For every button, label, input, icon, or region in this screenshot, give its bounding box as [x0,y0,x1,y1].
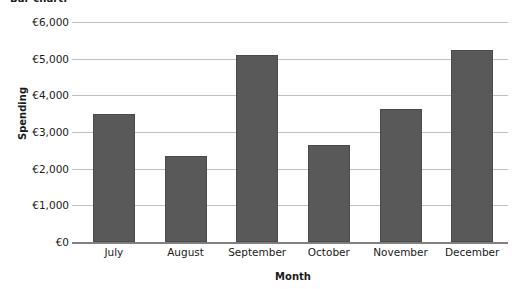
x-axis-tick-label: November [373,246,428,258]
y-axis-tick [72,132,78,133]
y-axis-tick-label: €2,000 [32,163,69,175]
gridline [78,205,508,206]
y-axis-tick [72,169,78,170]
bar [308,145,350,242]
bar [380,109,422,242]
y-axis-tick [72,22,78,23]
y-axis-tick [72,59,78,60]
y-axis-tick [72,205,78,206]
axis-baseline [78,242,508,244]
y-axis-tick-label: €3,000 [32,126,69,138]
gridline [78,59,508,60]
y-axis-tick [72,95,78,96]
gridline [78,22,508,23]
bar [236,55,278,242]
y-axis-tick-label: €4,000 [32,89,69,101]
y-axis-tick-label: €5,000 [32,53,69,65]
gridline [78,169,508,170]
bar-chart: Bar chart: Spending €0€1,000€2,000€3,000… [0,0,521,289]
x-axis-tick-label: July [104,246,123,258]
x-axis-tick-label: October [308,246,350,258]
y-axis-tick-label: €0 [56,236,69,248]
chart-title: Bar chart: [10,0,67,4]
x-axis-title: Month [78,271,508,282]
x-axis-tick-label: September [228,246,286,258]
plot-area: €0€1,000€2,000€3,000€4,000€5,000€6,000 J… [78,22,508,242]
gridline [78,132,508,133]
gridline [78,95,508,96]
x-axis-tick-label: August [167,246,204,258]
bar [93,114,135,242]
bar [451,50,493,243]
x-axis-tick-label: December [445,246,499,258]
y-axis-tick-label: €1,000 [32,199,69,211]
y-axis-tick [72,242,78,244]
bar [165,156,207,242]
y-axis-tick-label: €6,000 [32,16,69,28]
y-axis-title: Spending [17,74,28,154]
